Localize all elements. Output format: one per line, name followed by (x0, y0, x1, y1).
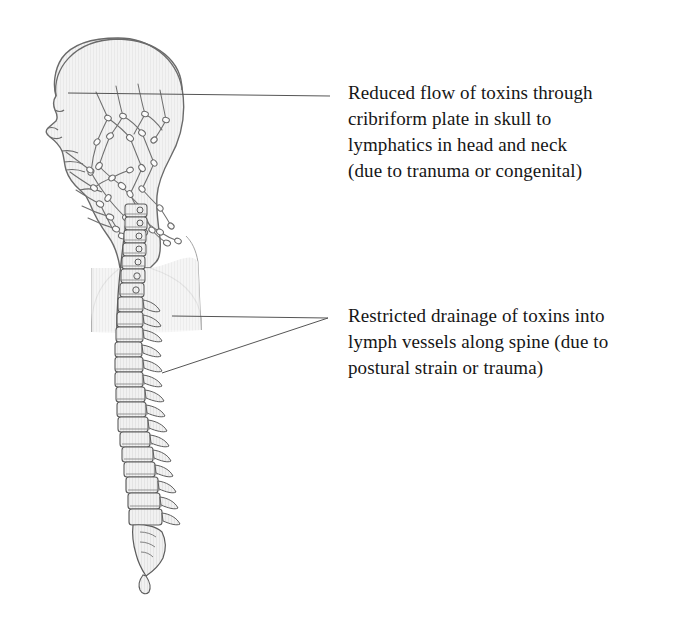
sacrum (133, 525, 166, 576)
callout-spinal-text: Restricted drainage of toxins into lymph… (348, 303, 668, 381)
diagram-canvas: Reduced flow of toxins through cribrifor… (0, 0, 694, 618)
coccyx (139, 575, 150, 594)
lumbar-vertebrae (126, 477, 180, 525)
callout-cranial-text: Reduced flow of toxins through cribrifor… (348, 80, 668, 184)
